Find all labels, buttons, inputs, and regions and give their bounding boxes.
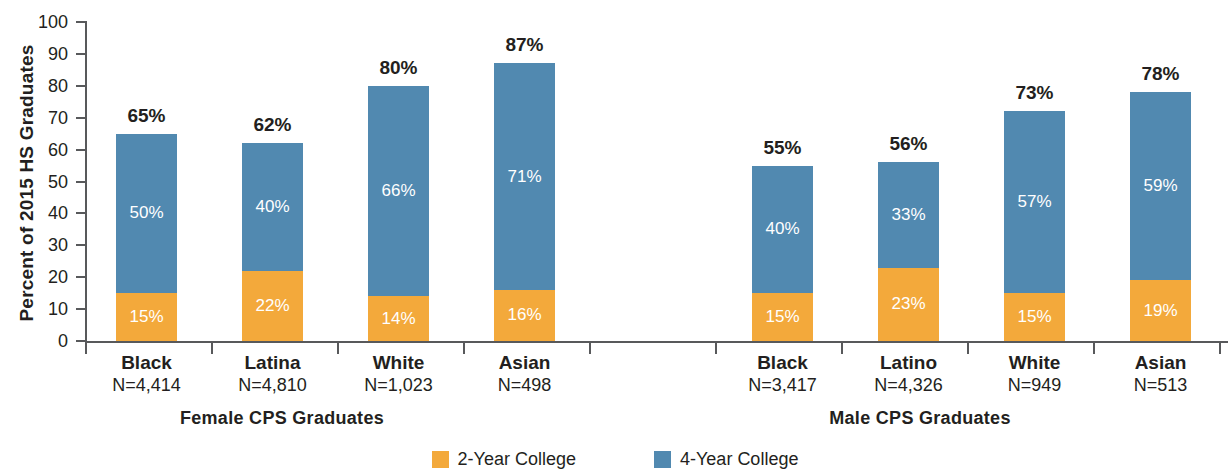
bar-segment-4-year: 40% bbox=[242, 143, 303, 271]
bar-segment-2-year: 16% bbox=[494, 290, 555, 341]
category-name: Asian bbox=[1091, 352, 1230, 374]
bar-total-label: 55% bbox=[752, 138, 813, 157]
bar-segment-4-year: 59% bbox=[1130, 92, 1191, 280]
category-label: BlackN=4,414 bbox=[77, 352, 217, 397]
category-name: Latina bbox=[203, 352, 343, 374]
bar-segment-4-year: 33% bbox=[878, 162, 939, 267]
bar-segment-label-2-year: 14% bbox=[368, 310, 429, 327]
bar-total-label: 65% bbox=[116, 106, 177, 125]
y-tick-mark bbox=[76, 21, 86, 23]
y-tick-mark bbox=[76, 244, 86, 246]
stacked-bar: 71%16%87% bbox=[494, 63, 555, 341]
bar-segment-label-4-year: 59% bbox=[1130, 177, 1191, 194]
bar-total-label: 56% bbox=[878, 134, 939, 153]
category-name: Black bbox=[713, 352, 853, 374]
y-tick-label: 100 bbox=[28, 13, 68, 31]
stacked-bar: 50%15%65% bbox=[116, 134, 177, 341]
bar-segment-2-year: 14% bbox=[368, 296, 429, 341]
category-label: WhiteN=1,023 bbox=[329, 352, 469, 397]
category-sample-size: N=4,326 bbox=[839, 374, 979, 397]
y-tick-mark bbox=[76, 308, 86, 310]
stacked-bar: 33%23%56% bbox=[878, 162, 939, 341]
y-tick-label: 40 bbox=[28, 204, 68, 222]
category-sample-size: N=498 bbox=[455, 374, 595, 397]
category-name: Latino bbox=[839, 352, 979, 374]
bar-total-label: 80% bbox=[368, 58, 429, 77]
x-axis-line bbox=[85, 341, 1228, 343]
bar-total-label: 62% bbox=[242, 115, 303, 134]
bar-segment-label-4-year: 71% bbox=[494, 168, 555, 185]
bar-segment-2-year: 15% bbox=[752, 293, 813, 341]
legend-label-2-year: 2-Year College bbox=[458, 450, 576, 468]
y-tick-label: 0 bbox=[28, 332, 68, 350]
y-tick-label: 60 bbox=[28, 141, 68, 159]
group-label-male: Male CPS Graduates bbox=[760, 408, 1080, 429]
bar-segment-label-2-year: 15% bbox=[116, 308, 177, 325]
bar-segment-4-year: 71% bbox=[494, 63, 555, 289]
bar-segment-2-year: 23% bbox=[878, 268, 939, 341]
bar-segment-label-4-year: 50% bbox=[116, 204, 177, 221]
category-label: AsianN=498 bbox=[455, 352, 595, 397]
category-name: White bbox=[965, 352, 1105, 374]
y-tick-label: 20 bbox=[28, 268, 68, 286]
legend: 2-Year College 4-Year College bbox=[0, 450, 1230, 468]
bar-total-label: 87% bbox=[494, 35, 555, 54]
category-sample-size: N=4,810 bbox=[203, 374, 343, 397]
stacked-bar-chart: Percent of 2015 HS Graduates 10090807060… bbox=[0, 0, 1230, 473]
category-label: LatinoN=4,326 bbox=[839, 352, 979, 397]
group-label-female: Female CPS Graduates bbox=[122, 408, 442, 429]
y-tick-label: 30 bbox=[28, 236, 68, 254]
bar-total-label: 78% bbox=[1130, 64, 1191, 83]
bar-segment-label-2-year: 23% bbox=[878, 295, 939, 312]
y-tick-mark bbox=[76, 53, 86, 55]
bar-total-label: 73% bbox=[1004, 83, 1065, 102]
bar-segment-4-year: 57% bbox=[1004, 111, 1065, 293]
bar-segment-label-2-year: 16% bbox=[494, 306, 555, 323]
y-tick-mark bbox=[76, 85, 86, 87]
bar-segment-2-year: 19% bbox=[1130, 280, 1191, 341]
bar-segment-label-4-year: 40% bbox=[752, 220, 813, 237]
category-sample-size: N=1,023 bbox=[329, 374, 469, 397]
category-sample-size: N=3,417 bbox=[713, 374, 853, 397]
y-tick-mark bbox=[76, 340, 86, 342]
bar-segment-label-4-year: 40% bbox=[242, 198, 303, 215]
bar-segment-label-2-year: 22% bbox=[242, 297, 303, 314]
bar-segment-2-year: 15% bbox=[1004, 293, 1065, 341]
bar-segment-2-year: 22% bbox=[242, 271, 303, 341]
y-tick-mark bbox=[76, 276, 86, 278]
bar-segment-4-year: 40% bbox=[752, 166, 813, 294]
bar-segment-label-2-year: 19% bbox=[1130, 302, 1191, 319]
stacked-bar: 59%19%78% bbox=[1130, 92, 1191, 341]
bar-segment-4-year: 66% bbox=[368, 86, 429, 297]
y-tick-mark bbox=[76, 117, 86, 119]
legend-swatch-2-year bbox=[432, 451, 449, 468]
stacked-bar: 40%22%62% bbox=[242, 143, 303, 341]
y-tick-mark bbox=[76, 181, 86, 183]
bar-segment-label-2-year: 15% bbox=[1004, 308, 1065, 325]
bar-segment-4-year: 50% bbox=[116, 134, 177, 294]
y-tick-mark bbox=[76, 149, 86, 151]
y-tick-label: 90 bbox=[28, 45, 68, 63]
bar-segment-label-2-year: 15% bbox=[752, 308, 813, 325]
legend-item-4-year: 4-Year College bbox=[654, 450, 798, 468]
category-label: BlackN=3,417 bbox=[713, 352, 853, 397]
y-tick-label: 80 bbox=[28, 77, 68, 95]
stacked-bar: 57%15%73% bbox=[1004, 111, 1065, 341]
bar-segment-2-year: 15% bbox=[116, 293, 177, 341]
category-label: WhiteN=949 bbox=[965, 352, 1105, 397]
stacked-bar: 66%14%80% bbox=[368, 86, 429, 341]
category-name: Asian bbox=[455, 352, 595, 374]
category-sample-size: N=949 bbox=[965, 374, 1105, 397]
legend-swatch-4-year bbox=[654, 451, 671, 468]
category-sample-size: N=513 bbox=[1091, 374, 1230, 397]
category-label: LatinaN=4,810 bbox=[203, 352, 343, 397]
bar-segment-label-4-year: 57% bbox=[1004, 193, 1065, 210]
category-name: White bbox=[329, 352, 469, 374]
category-sample-size: N=4,414 bbox=[77, 374, 217, 397]
y-tick-mark bbox=[76, 212, 86, 214]
stacked-bar: 40%15%55% bbox=[752, 166, 813, 341]
bar-segment-label-4-year: 33% bbox=[878, 206, 939, 223]
y-tick-label: 50 bbox=[28, 173, 68, 191]
legend-label-4-year: 4-Year College bbox=[680, 450, 798, 468]
category-label: AsianN=513 bbox=[1091, 352, 1230, 397]
